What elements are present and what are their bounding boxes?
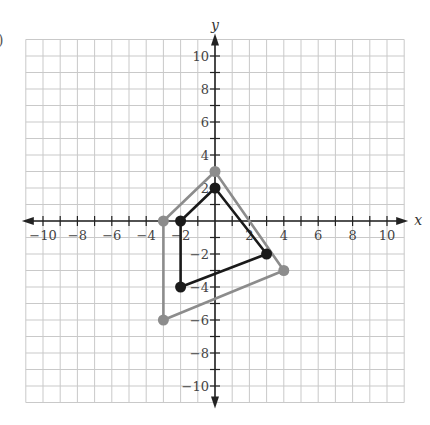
x-axis-left-arrow-icon <box>22 217 34 225</box>
x-tick-label: −4 <box>137 228 156 243</box>
y-tick-label: −10 <box>182 379 209 394</box>
x-tick-label: −8 <box>68 228 87 243</box>
y-tick-label: −2 <box>190 247 209 262</box>
y-axis-label: y <box>210 17 220 33</box>
axes <box>22 34 408 409</box>
y-tick-label: −6 <box>190 313 209 328</box>
x-axis-label: x <box>414 212 422 228</box>
polygons <box>158 166 289 326</box>
gray-quadrilateral-vertex <box>158 216 169 227</box>
y-tick-label: 6 <box>201 115 209 130</box>
y-tick-label: 10 <box>192 49 209 64</box>
x-tick-label: −6 <box>102 228 121 243</box>
x-tick-label: 10 <box>379 228 396 243</box>
black-quadrilateral-vertex <box>175 282 186 293</box>
gray-quadrilateral-vertex <box>210 166 221 177</box>
y-tick-label: 8 <box>201 82 209 97</box>
x-axis-right-arrow-icon <box>396 217 408 225</box>
black-quadrilateral-vertex <box>210 183 221 194</box>
x-tick-label: 6 <box>314 228 322 243</box>
x-tick-label: 8 <box>348 228 356 243</box>
gray-quadrilateral-vertex <box>158 315 169 326</box>
axis-tick-labels: xy−10−8−6−4−2246810108642−2−4−6−8−10 <box>29 17 422 395</box>
black-quadrilateral-vertex <box>261 249 272 260</box>
x-tick-label: −10 <box>29 228 56 243</box>
coordinate-plane: xy−10−8−6−4−2246810108642−2−4−6−8−10 <box>0 0 430 425</box>
black-quadrilateral-vertex <box>175 216 186 227</box>
x-tick-label: 4 <box>280 228 288 243</box>
y-tick-label: 4 <box>201 148 209 163</box>
y-tick-label: −8 <box>190 346 209 361</box>
gray-quadrilateral-vertex <box>278 265 289 276</box>
